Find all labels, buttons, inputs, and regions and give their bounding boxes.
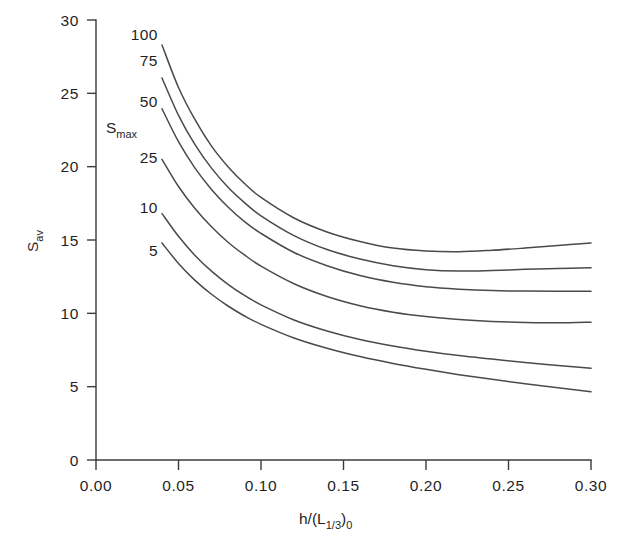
x-tick-label: 0.25 [492,477,525,494]
y-tick-label: 0 [70,452,79,469]
x-axis-ticks [96,460,591,470]
y-axis-ticks [87,20,96,460]
curve-label-smax-5: 5 [149,242,158,259]
x-axis-title: h/(L1/3)0 [299,510,352,531]
y-tick-label: 25 [61,85,79,102]
curve-label-smax-50: 50 [140,93,158,110]
x-tick-label: 0.05 [162,477,195,494]
data-curve-smax-75 [162,78,591,271]
data-curve-smax-5 [162,243,591,392]
curve-label-smax-25: 25 [140,149,158,166]
x-tick-label: 0.15 [327,477,360,494]
y-axis-tick-labels: 051015202530 [61,12,79,469]
y-axis-title-sub: av [33,230,45,242]
curve-label-smax-75: 75 [140,52,158,69]
x-tick-label: 0.30 [575,477,608,494]
legend-title-sub: max [116,128,137,140]
x-axis-title-main: h/(L [299,510,326,527]
x-axis-tick-labels: 0.000.050.100.150.200.250.30 [80,477,608,494]
data-curve-smax-100 [162,45,591,252]
y-axis-title: Sav [24,230,45,252]
legend-title: Smax [106,119,138,140]
curve-label-smax-10: 10 [140,199,158,216]
data-curve-smax-50 [162,109,591,292]
y-tick-label: 5 [70,378,79,395]
line-chart: 051015202530 0.000.050.100.150.200.250.3… [0,0,627,544]
x-tick-label: 0.20 [410,477,443,494]
x-tick-label: 0.00 [80,477,113,494]
y-axis-title-main: S [24,242,41,252]
curve-group [162,45,591,392]
y-tick-label: 10 [61,305,79,322]
figure-container: 051015202530 0.000.050.100.150.200.250.3… [0,0,627,544]
y-tick-label: 30 [61,12,79,29]
legend-title-main: S [106,119,116,136]
curve-label-group: 100755025105 [131,26,158,259]
x-tick-label: 0.10 [245,477,278,494]
x-axis-title-sub1: 1/3 [326,519,341,531]
y-tick-label: 15 [61,232,79,249]
x-axis-title-sub2: 0 [346,519,352,531]
curve-label-smax-100: 100 [131,26,158,43]
data-curve-smax-25 [162,159,591,323]
y-tick-label: 20 [61,158,79,175]
